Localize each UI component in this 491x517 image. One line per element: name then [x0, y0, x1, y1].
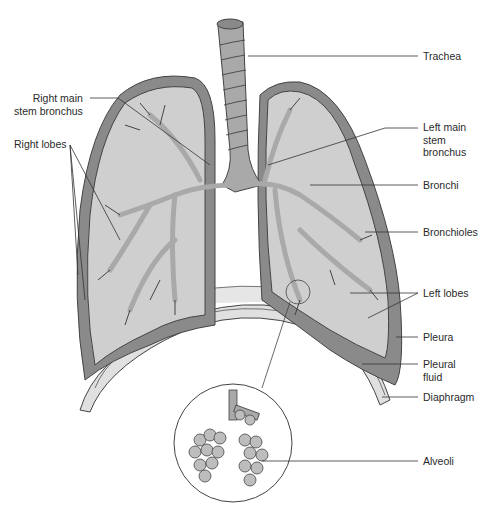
label-pleural-fluid: Pleural fluid	[423, 358, 456, 383]
label-bronchi: Bronchi	[423, 179, 459, 192]
label-right-lobes: Right lobes	[14, 138, 67, 151]
label-trachea: Trachea	[423, 50, 461, 63]
lungs-diagram	[0, 0, 491, 517]
label-left-lobes: Left lobes	[423, 287, 469, 300]
label-left-main-stem-bronchus: Left main stem bronchus	[423, 121, 466, 159]
label-alveoli: Alveoli	[423, 455, 454, 468]
label-right-main-stem-bronchus: Right main stem bronchus	[14, 92, 83, 117]
label-diaphragm: Diaphragm	[423, 391, 474, 404]
trachea	[218, 21, 262, 192]
label-pleura: Pleura	[423, 331, 453, 344]
label-bronchioles: Bronchioles	[423, 226, 478, 239]
